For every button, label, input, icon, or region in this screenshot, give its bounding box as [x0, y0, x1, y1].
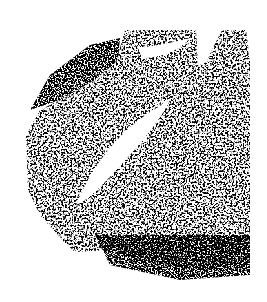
stipple-canvas	[0, 0, 267, 302]
stipple-artwork	[0, 0, 267, 302]
